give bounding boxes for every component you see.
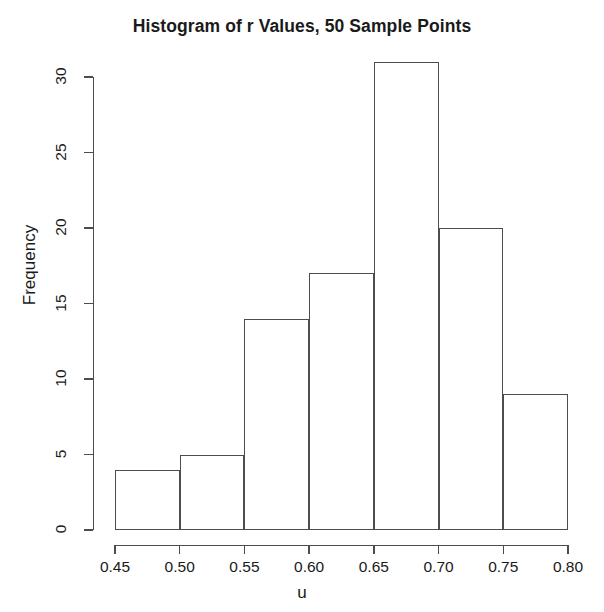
histogram-bar — [115, 470, 180, 530]
histogram-figure: Histogram of r Values, 50 Sample Points … — [0, 0, 604, 612]
histogram-bar — [309, 273, 374, 530]
histogram-bar — [503, 394, 568, 530]
histogram-bar — [439, 228, 504, 530]
histogram-bar — [180, 455, 245, 531]
bars-layer — [0, 0, 604, 612]
histogram-bar — [374, 62, 439, 530]
histogram-bar — [244, 319, 309, 530]
